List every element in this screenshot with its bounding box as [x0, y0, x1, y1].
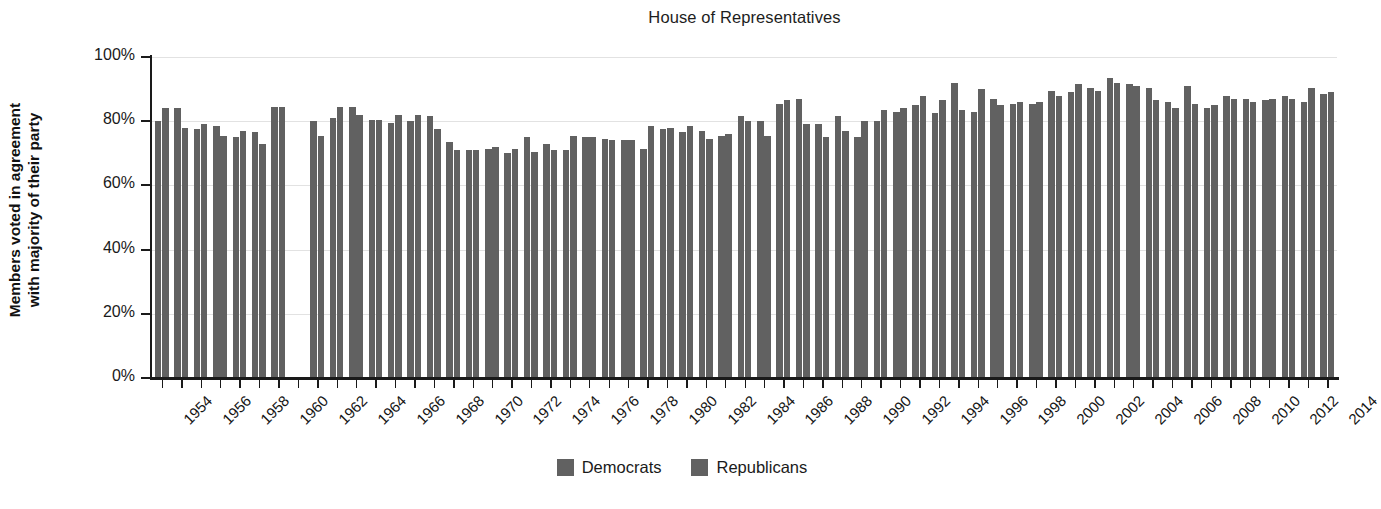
x-tick-mark: [1152, 379, 1153, 388]
bar-republicans-1984: [745, 121, 752, 378]
bar-republicans-2007: [1192, 104, 1199, 378]
x-tick-mark: [570, 379, 571, 388]
bar-democrats-2013: [1301, 102, 1308, 378]
bar-republicans-1956: [201, 124, 208, 378]
x-tick-label: 2014: [1345, 392, 1381, 428]
bar-republicans-1973: [531, 152, 538, 378]
x-tick-label: 1960: [296, 392, 332, 428]
bar-republicans-1992: [900, 108, 907, 378]
x-tick-mark: [317, 379, 318, 388]
x-tick-label: 1988: [840, 392, 876, 428]
bar-democrats-1983: [718, 136, 725, 378]
bar-republicans-1996: [978, 89, 985, 378]
bar-democrats-1971: [485, 149, 492, 379]
x-tick-mark: [434, 379, 435, 388]
x-tick-mark: [531, 379, 532, 388]
x-tick-mark: [492, 379, 493, 388]
bar-republicans-2004: [1133, 86, 1140, 378]
x-tick-label: 1966: [413, 392, 449, 428]
bar-democrats-1990: [854, 137, 861, 378]
bar-republicans-1970: [473, 150, 480, 378]
bar-democrats-1992: [893, 112, 900, 378]
bars-layer: [152, 57, 1337, 378]
x-tick-mark: [1269, 379, 1270, 388]
x-tick-mark: [1016, 379, 1017, 388]
bar-republicans-2000: [1056, 96, 1063, 378]
bar-democrats-1955: [174, 108, 181, 378]
bar-democrats-1995: [951, 83, 958, 378]
bar-democrats-1998: [1010, 104, 1017, 378]
bar-republicans-1958: [240, 131, 247, 378]
y-tick-mark: [141, 184, 151, 186]
x-tick-mark: [511, 379, 512, 388]
x-tick-mark: [1055, 379, 1056, 388]
y-tick-label: 0%: [55, 367, 135, 385]
x-tick-mark: [239, 379, 240, 388]
bar-democrats-1999: [1029, 104, 1036, 378]
x-tick-mark: [609, 379, 610, 388]
bar-republicans-1993: [920, 96, 927, 378]
x-tick-mark: [1327, 379, 1328, 388]
bar-democrats-1996: [971, 112, 978, 378]
x-tick-mark: [550, 379, 551, 388]
bar-republicans-1997: [997, 105, 1004, 378]
bar-democrats-1985: [757, 121, 764, 378]
bar-democrats-1997: [990, 99, 997, 378]
y-tick-mark: [141, 377, 151, 379]
y-axis-title-line1: Members voted in agreement: [5, 42, 24, 378]
x-tick-mark: [375, 379, 376, 388]
x-tick-mark: [1211, 379, 1212, 388]
bar-republicans-2013: [1308, 88, 1315, 379]
legend-label-democrats: Democrats: [582, 458, 662, 477]
x-tick-mark: [1133, 379, 1134, 388]
bar-republicans-1977: [609, 140, 616, 378]
bar-democrats-1984: [738, 116, 745, 378]
bar-republicans-1963: [337, 107, 344, 378]
x-tick-mark: [764, 379, 765, 388]
bar-democrats-1972: [504, 153, 511, 378]
bar-republicans-1968: [434, 129, 441, 378]
x-tick-mark: [1191, 379, 1192, 388]
legend-swatch-democrats: [557, 459, 574, 476]
bar-republicans-1954: [162, 108, 169, 378]
bar-democrats-1958: [233, 137, 240, 378]
bar-republicans-1989: [842, 131, 849, 378]
bar-democrats-1977: [602, 139, 609, 378]
bar-republicans-1966: [395, 115, 402, 378]
bar-republicans-1999: [1036, 102, 1043, 378]
x-tick-label: 1990: [879, 392, 915, 428]
bar-democrats-1968: [427, 116, 434, 378]
bar-republicans-1980: [667, 128, 674, 378]
y-axis-title-line2: with majority of their party: [24, 42, 43, 378]
bar-democrats-2010: [1243, 99, 1250, 378]
bar-republicans-1969: [454, 150, 461, 378]
x-tick-mark: [939, 379, 940, 388]
bar-republicans-1986: [784, 100, 791, 378]
x-tick-mark: [1288, 379, 1289, 388]
bar-democrats-1993: [912, 105, 919, 378]
x-tick-label: 2008: [1228, 392, 1264, 428]
x-tick-label: 1996: [995, 392, 1031, 428]
bar-democrats-1969: [446, 142, 453, 378]
x-tick-mark: [958, 379, 959, 388]
bar-democrats-1966: [388, 123, 395, 378]
bar-republicans-2009: [1231, 99, 1238, 378]
bar-republicans-2005: [1153, 100, 1160, 378]
x-tick-mark: [181, 379, 182, 388]
x-tick-mark: [628, 379, 629, 388]
x-tick-label: 1958: [257, 392, 293, 428]
bar-republicans-1971: [492, 147, 499, 378]
bar-democrats-2003: [1107, 78, 1114, 378]
bar-democrats-2004: [1126, 84, 1133, 378]
bar-republicans-1975: [570, 136, 577, 378]
x-tick-mark: [1114, 379, 1115, 388]
legend-label-republicans: Republicans: [716, 458, 807, 477]
bar-republicans-1994: [939, 100, 946, 378]
x-tick-mark: [162, 379, 163, 388]
bar-republicans-1990: [861, 121, 868, 378]
x-tick-mark: [1250, 379, 1251, 388]
x-tick-mark: [803, 379, 804, 388]
x-tick-mark: [220, 379, 221, 388]
x-tick-mark: [745, 379, 746, 388]
